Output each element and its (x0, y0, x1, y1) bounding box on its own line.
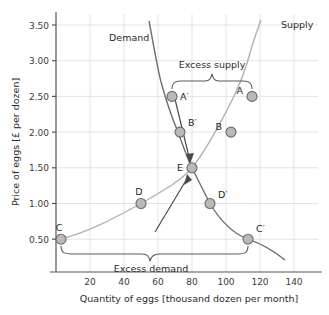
supply-curve-label: Supply (281, 19, 314, 30)
y-tick-label-3.50: 3.50 (29, 21, 49, 31)
marker-point-A-prime[interactable] (167, 91, 177, 101)
excess-demand-label: Excess demand (114, 263, 188, 274)
x-tick-label-60: 60 (152, 277, 164, 287)
excess-supply-label: Excess supply (179, 59, 246, 70)
horizontal-gridlines (56, 25, 318, 239)
data-point-labels: A A′ B B′ E D D′ C C′ (56, 85, 265, 234)
x-tick-label-140: 140 (285, 277, 302, 287)
marker-point-C[interactable] (56, 234, 66, 244)
marker-point-A[interactable] (247, 91, 257, 101)
x-tick-label-80: 80 (186, 277, 198, 287)
point-label-B: B (215, 121, 222, 132)
y-tick-label-0.50: 0.50 (29, 235, 49, 245)
x-tick-label-40: 40 (118, 277, 130, 287)
y-tick-label-3.00: 3.00 (29, 56, 49, 66)
point-label-D: D (135, 186, 142, 197)
point-label-A-prime: A′ (180, 91, 189, 102)
x-tick-label-100: 100 (217, 277, 234, 287)
y-axis-title: Price of eggs [£ per dozen] (10, 78, 21, 206)
y-tick-label-2.00: 2.00 (29, 128, 49, 138)
supply-demand-chart: 3.50 3.00 2.50 2.00 1.50 1.00 0.50 20 40… (0, 0, 329, 315)
demand-curve-label: Demand (109, 32, 149, 43)
x-tick-label-120: 120 (251, 277, 268, 287)
point-label-A: A (237, 85, 244, 96)
chart-canvas: 3.50 3.00 2.50 2.00 1.50 1.00 0.50 20 40… (0, 0, 329, 315)
marker-point-D[interactable] (136, 199, 146, 209)
y-tick-label-1.00: 1.00 (29, 199, 49, 209)
point-label-C: C (56, 222, 63, 233)
point-label-E: E (177, 162, 183, 173)
x-axis-title: Quantity of eggs [thousand dozen per mon… (80, 293, 298, 304)
marker-point-C-prime[interactable] (243, 234, 253, 244)
point-label-D-prime: D′ (218, 189, 227, 200)
point-label-C-prime: C′ (256, 223, 265, 234)
x-tick-label-20: 20 (84, 277, 96, 287)
marker-point-E[interactable] (187, 163, 197, 173)
excess-demand-brace (61, 246, 248, 261)
marker-point-B[interactable] (226, 127, 236, 137)
y-tick-label-1.50: 1.50 (29, 163, 49, 173)
marker-point-D-prime[interactable] (205, 199, 215, 209)
y-tick-label-2.50: 2.50 (29, 92, 49, 102)
y-tick-labels: 3.50 3.00 2.50 2.00 1.50 1.00 0.50 (29, 21, 49, 245)
x-tick-labels: 20 40 60 80 100 120 140 (84, 277, 303, 287)
equilibrium-arrows (155, 95, 194, 232)
marker-point-B-prime[interactable] (175, 127, 185, 137)
point-label-B-prime: B′ (188, 117, 197, 128)
